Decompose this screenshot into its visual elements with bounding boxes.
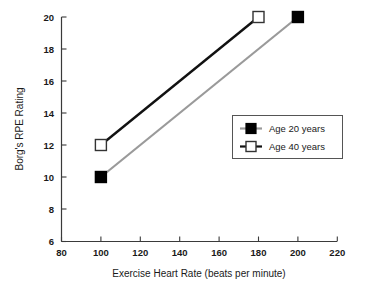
x-axis-ticks (62, 237, 338, 242)
chart-legend: Age 20 years Age 40 years (233, 116, 343, 159)
x-tick-label: 220 (329, 247, 345, 258)
y-axis-tick-labels: 20 18 16 14 12 10 8 6 (43, 12, 54, 248)
y-tick-label: 8 (49, 204, 54, 215)
data-point-marker (253, 12, 264, 23)
y-axis-title: Borg's RPE Rating (14, 87, 25, 170)
chart-figure: 20 18 16 14 12 10 8 6 80 100 120 140 160… (0, 0, 371, 295)
x-tick-label: 120 (132, 247, 148, 258)
x-tick-label: 160 (211, 247, 227, 258)
y-tick-label: 18 (43, 44, 54, 55)
legend-filled-square-icon (246, 124, 256, 134)
x-axis-tick-labels: 80 100 120 140 160 180 200 220 (56, 247, 345, 258)
y-tick-label: 6 (49, 236, 54, 247)
y-axis-ticks (62, 17, 67, 242)
x-tick-label: 80 (56, 247, 67, 258)
x-tick-label: 180 (251, 247, 267, 258)
x-tick-label: 140 (172, 247, 188, 258)
y-tick-label: 16 (43, 76, 54, 87)
legend-item-age-40[interactable]: Age 40 years (240, 141, 325, 152)
x-axis-title: Exercise Heart Rate (beats per minute) (112, 268, 285, 279)
y-tick-label: 12 (43, 140, 54, 151)
y-tick-label: 14 (43, 108, 54, 119)
legend-open-square-icon (246, 142, 256, 152)
chart-plot-area: 20 18 16 14 12 10 8 6 80 100 120 140 160… (0, 0, 371, 295)
x-tick-label: 100 (93, 247, 109, 258)
y-tick-label: 10 (43, 172, 54, 183)
legend-item-age-20[interactable]: Age 20 years (240, 123, 325, 134)
legend-label: Age 40 years (269, 141, 325, 152)
data-point-marker (95, 172, 106, 183)
x-tick-label: 200 (290, 247, 306, 258)
legend-label: Age 20 years (269, 123, 325, 134)
data-point-marker (95, 140, 106, 151)
y-tick-label: 20 (43, 12, 54, 23)
data-point-marker (292, 12, 303, 23)
